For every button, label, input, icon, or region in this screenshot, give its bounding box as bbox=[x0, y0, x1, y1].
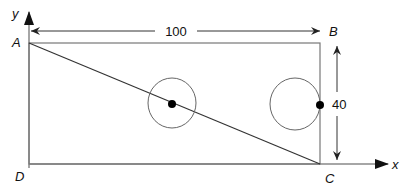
point-c-label: C bbox=[325, 171, 335, 186]
height-dimension-label: 40 bbox=[332, 97, 346, 112]
point-a-label: A bbox=[11, 35, 21, 50]
point-b-label: B bbox=[329, 24, 338, 39]
right-dot bbox=[316, 101, 324, 109]
right-circle bbox=[270, 78, 320, 130]
center-dot bbox=[168, 100, 176, 108]
x-axis-label: x bbox=[391, 157, 399, 172]
rectangle-diagram: 100 40 A B C D y x bbox=[0, 0, 407, 190]
point-d-label: D bbox=[15, 169, 24, 184]
y-axis-label: y bbox=[11, 6, 20, 21]
width-dimension-label: 100 bbox=[165, 24, 187, 39]
